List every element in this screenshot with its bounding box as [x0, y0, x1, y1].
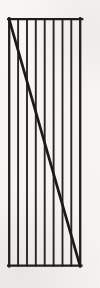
scanned-paper-page — [0, 0, 100, 288]
hatched-rectangle-diagram — [0, 0, 100, 288]
